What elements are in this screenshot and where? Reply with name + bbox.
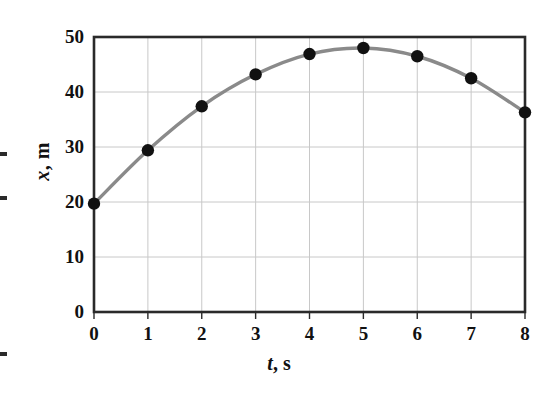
x-axis-unit: , s [273, 352, 291, 374]
y-tick-label: 50 [44, 27, 84, 46]
x-tick-label: 5 [348, 324, 378, 343]
data-point-marker [142, 144, 154, 156]
x-axis-label: t, s [0, 352, 558, 375]
x-tick-label: 3 [241, 324, 271, 343]
y-axis-unit: , m [31, 142, 53, 170]
data-point-marker [465, 72, 477, 84]
data-point-marker [249, 68, 261, 80]
left-edge-crop-mark-top [0, 152, 7, 156]
y-axis-symbol: x [31, 170, 53, 181]
x-tick-label: 1 [133, 324, 163, 343]
data-point-marker [196, 100, 208, 112]
data-point-marker [411, 50, 423, 62]
position-time-chart: 01020304050 012345678 x, m t, s [0, 0, 558, 400]
x-tick-label: 6 [402, 324, 432, 343]
x-tick-label: 7 [456, 324, 486, 343]
y-tick-label: 10 [44, 247, 84, 266]
data-point-marker [519, 106, 531, 118]
y-tick-label: 40 [44, 82, 84, 101]
data-point-marker [357, 42, 369, 54]
left-edge-crop-mark-lower [0, 352, 7, 356]
x-tick-label: 8 [510, 324, 540, 343]
data-point-marker [88, 197, 100, 209]
y-axis-label: x, m [31, 112, 54, 212]
left-edge-crop-mark-bottom [0, 196, 7, 200]
x-tick-label: 4 [295, 324, 325, 343]
x-tick-label: 2 [187, 324, 217, 343]
gridlines-group [94, 37, 525, 312]
x-tick-label: 0 [79, 324, 109, 343]
y-tick-label: 0 [44, 302, 84, 321]
data-point-marker [303, 48, 315, 60]
